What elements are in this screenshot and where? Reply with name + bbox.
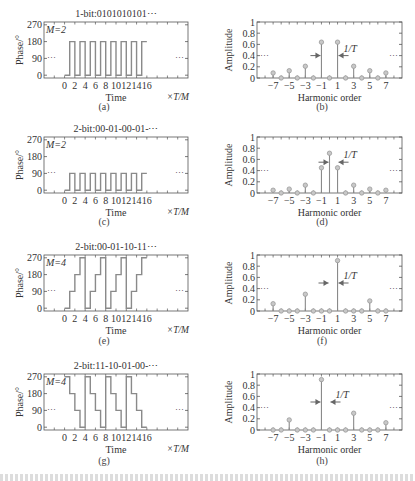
chart-g: 2-bit:11-10-01-00-⋯090180270024681012141… [14,360,190,455]
x-tick-label: 16 [142,195,152,206]
stem-marker [368,299,372,303]
chart-h: 00.20.40.60.81−7−5−3−11357Harmonic order… [223,369,402,456]
x-tick-label: 12 [121,432,131,443]
stem-marker [311,76,315,80]
y-tick-label: 0 [37,303,42,314]
x-tick-label: −3 [300,195,311,206]
chart-d: 00.20.40.60.81−7−5−3−11357Harmonic order… [223,132,402,219]
stem-marker [384,188,388,192]
stem-marker [376,191,380,195]
stem-marker [271,428,275,432]
y-tick-label: 0.6 [243,39,256,50]
x-tick-label: 1 [335,80,340,91]
x-tick-label: 0 [62,313,67,324]
stem-marker [360,191,364,195]
chart-b: 00.20.40.60.81−7−5−3−11357Harmonic order… [223,17,402,104]
stem-marker [303,64,307,68]
ellipsis-left: ··· [260,402,269,412]
x-tick-label: 0 [62,195,67,206]
arrow-right-icon [315,399,320,405]
ellipsis-right: ··· [389,165,398,175]
y-tick-label: 0 [250,425,255,436]
stem-marker [295,309,299,313]
caption-c: (c) [84,216,124,227]
y-tick-label: 180 [27,269,42,280]
stem-marker [303,292,307,296]
period-annotation: 1/T [344,43,359,54]
x-tick-label: −3 [300,432,311,443]
stem-marker [327,428,331,432]
chart-title: 2-bit:00-01-00-01-⋯ [74,123,159,134]
x-tick-label: −1 [316,195,327,206]
plot-frame [257,255,402,311]
y-axis-label: Amplitude [223,143,234,186]
y-tick-label: 270 [27,252,42,263]
x-tick-label: 14 [132,195,142,206]
phase-waveform [65,42,147,76]
y-tick-label: 270 [27,19,42,30]
x-tick-label: 12 [121,80,131,91]
stem-marker [287,418,291,422]
y-tick-label: 90 [32,286,42,297]
y-tick-label: 0 [37,185,42,196]
y-tick-label: 0.8 [243,261,256,272]
y-tick-label: 90 [32,168,42,179]
x-tick-label: −5 [284,80,295,91]
ellipsis-left: ··· [47,404,56,414]
y-tick-label: 0.8 [243,143,256,154]
stem-marker [351,411,355,415]
x-tick-label: 14 [132,313,142,324]
phase-waveform [65,377,147,427]
x-tick-label: 6 [93,195,98,206]
chart-a: 1-bit:0101010101⋯0901802700246810121416T… [14,8,190,103]
chart-c: 2-bit:00-01-00-01-⋯090180270024681012141… [14,123,190,218]
stem-marker [368,428,372,432]
x-tick-label: 2 [72,313,77,324]
stem-marker [271,71,275,75]
y-tick-label: 0.2 [243,176,256,187]
stem-marker [376,428,380,432]
caption-a: (a) [84,101,124,112]
x-tick-label: −5 [284,432,295,443]
y-tick-label: 0.8 [243,28,256,39]
y-tick-label: 0.4 [243,165,256,176]
stem-marker [319,40,323,44]
y-tick-label: 0 [250,73,255,84]
stem-marker [295,76,299,80]
x-tick-label: 4 [83,432,88,443]
x-tick-label: 10 [111,80,121,91]
stem-marker [295,191,299,195]
y-tick-label: 0 [37,70,42,81]
y-axis-label: Phase/° [14,268,25,298]
stem-marker [319,377,323,381]
stem-marker [279,428,283,432]
y-tick-label: 1 [250,369,255,380]
stem-marker [311,191,315,195]
stem-marker [287,309,291,313]
y-tick-label: 0.4 [243,283,256,294]
x-unit-label: ×T/M [167,207,190,217]
chart-e: 2-bit:00-01-10-11⋯0901802700246810121416… [14,241,190,336]
x-tick-label: 4 [83,313,88,324]
caption-e: (e) [84,335,124,346]
ellipsis-right: ··· [389,283,398,293]
y-tick-label: 0.6 [243,391,256,402]
stem-marker [360,309,364,313]
x-tick-label: −7 [268,195,279,206]
x-tick-label: 10 [111,313,121,324]
x-axis-label: Time [106,444,127,455]
period-annotation: 1/T [344,270,359,281]
x-tick-label: 1 [335,432,340,443]
x-tick-label: 1 [335,313,340,324]
x-tick-label: 16 [142,80,152,91]
x-tick-label: 8 [103,313,108,324]
ellipsis-right: ··· [175,52,184,62]
x-tick-label: −1 [316,313,327,324]
x-tick-label: 10 [111,432,121,443]
stem-marker [271,188,275,192]
stem-marker [279,76,283,80]
ellipsis-left: ··· [260,165,269,175]
arrow-right-icon [315,53,320,59]
x-tick-label: 3 [351,432,356,443]
x-tick-label: −7 [268,80,279,91]
